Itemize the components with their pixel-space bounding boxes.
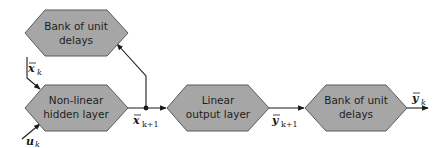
svg-text:x: x	[132, 114, 140, 127]
node-label-line2: hidden layer	[43, 108, 109, 120]
node-linear-output-layer: Linear output layer	[167, 85, 269, 131]
edge-feedback	[117, 44, 146, 108]
node-label-line1: Bank of unit	[44, 20, 108, 32]
svg-text:k+1: k+1	[142, 120, 159, 129]
rnn-block-diagram: Bank of unit delays Non-linear hidden la…	[0, 0, 448, 148]
label-x-bar-k-plus-1: x k+1	[132, 114, 159, 129]
svg-text:y: y	[271, 114, 280, 127]
node-label-line1: Bank of unit	[324, 94, 388, 106]
svg-text:k: k	[35, 140, 40, 148]
svg-text:k+1: k+1	[281, 120, 298, 129]
svg-text:k: k	[421, 98, 426, 107]
svg-text:x: x	[27, 62, 35, 75]
label-u-k: u k	[26, 135, 40, 148]
svg-text:y: y	[411, 92, 420, 105]
label-x-bar-k: x k	[27, 62, 42, 77]
junction-dot	[144, 106, 149, 111]
node-bank-of-unit-delays-right: Bank of unit delays	[305, 85, 407, 131]
node-label-line2: delays	[339, 108, 373, 120]
node-bank-of-unit-delays-top: Bank of unit delays	[25, 10, 128, 56]
node-label-line1: Non-linear	[49, 94, 104, 106]
node-nonlinear-hidden-layer: Non-linear hidden layer	[25, 85, 128, 131]
svg-text:u: u	[26, 135, 34, 148]
label-y-bar-k: y k	[411, 92, 426, 107]
node-label-line1: Linear	[202, 94, 235, 106]
svg-text:k: k	[37, 68, 42, 77]
node-label-line2: output layer	[186, 108, 251, 120]
label-y-bar-k-plus-1: y k+1	[271, 114, 298, 129]
node-label-line2: delays	[59, 34, 93, 46]
